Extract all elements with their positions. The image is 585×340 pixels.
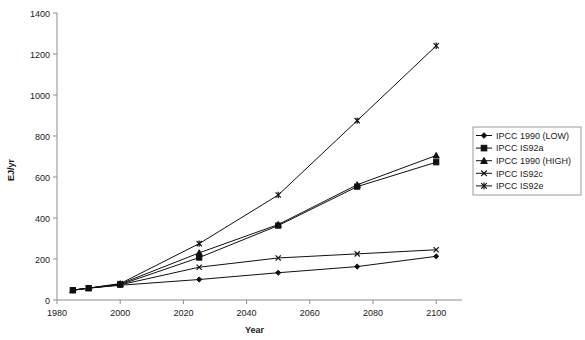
x-axis-title: Year bbox=[245, 325, 265, 335]
data-point-triangle-marker bbox=[433, 152, 439, 158]
series-polyline bbox=[73, 155, 436, 290]
y-tick-label: 200 bbox=[35, 255, 50, 265]
y-tick-label: 0 bbox=[45, 296, 50, 306]
chart-container: 0200400600800100012001400198020002020204… bbox=[0, 0, 585, 340]
x-tick-label: 2000 bbox=[110, 308, 130, 318]
y-tick-label: 400 bbox=[35, 214, 50, 224]
series-polyline bbox=[73, 256, 436, 290]
y-axis-title: EJ/yr bbox=[6, 159, 16, 182]
x-tick-label: 2020 bbox=[173, 308, 193, 318]
data-point-diamond-marker bbox=[355, 264, 360, 269]
x-tick-label: 2100 bbox=[426, 308, 446, 318]
series-polyline bbox=[73, 162, 436, 290]
series-ipcc-1990-low bbox=[70, 254, 439, 293]
series-ipcc-is92e bbox=[70, 43, 439, 294]
series-polyline bbox=[73, 250, 436, 290]
y-tick-group: 0200400600800100012001400 bbox=[30, 9, 57, 306]
x-tick-group: 1980200020202040206020802100 bbox=[47, 300, 446, 318]
y-tick-label: 1400 bbox=[30, 9, 50, 19]
legend-label: IPCC IS92e bbox=[496, 181, 544, 191]
data-point-diamond-marker bbox=[434, 254, 439, 259]
y-tick-label: 600 bbox=[35, 173, 50, 183]
data-point-square-marker bbox=[434, 160, 439, 165]
axes-group bbox=[57, 13, 462, 300]
y-tick-label: 800 bbox=[35, 132, 50, 142]
legend-label: IPCC IS92c bbox=[496, 169, 544, 179]
x-tick-label: 2060 bbox=[300, 308, 320, 318]
legend-marker-square-icon bbox=[481, 145, 487, 151]
legend: IPCC 1990 (LOW)IPCC IS92aIPCC 1990 (HIGH… bbox=[473, 127, 581, 195]
y-tick-label: 1000 bbox=[30, 91, 50, 101]
x-tick-label: 2080 bbox=[363, 308, 383, 318]
legend-label: IPCC 1990 (LOW) bbox=[496, 131, 569, 141]
series-polyline bbox=[73, 46, 436, 290]
series-ipcc-is92c bbox=[70, 247, 439, 293]
line-chart: 0200400600800100012001400198020002020204… bbox=[0, 0, 585, 340]
series-ipcc-is92a bbox=[70, 160, 439, 293]
x-tick-label: 2040 bbox=[237, 308, 257, 318]
series-ipcc-1990-high bbox=[70, 152, 440, 292]
data-point-diamond-marker bbox=[276, 270, 281, 275]
x-tick-label: 1980 bbox=[47, 308, 67, 318]
y-tick-label: 1200 bbox=[30, 50, 50, 60]
legend-label: IPCC IS92a bbox=[496, 143, 544, 153]
legend-label: IPCC 1990 (HIGH) bbox=[496, 156, 571, 166]
data-point-diamond-marker bbox=[197, 277, 202, 282]
